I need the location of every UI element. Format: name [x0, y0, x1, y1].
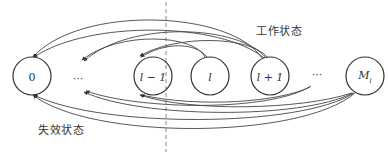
- ellipsis-right: ···: [312, 68, 323, 81]
- node-label-m-i: Mi: [358, 69, 372, 84]
- failure-state-label: 失效状态: [38, 121, 84, 137]
- node-label-0: 0: [29, 71, 36, 84]
- working-state-label: 工作状态: [256, 22, 302, 38]
- node-label-l-plus-1: l + 1: [257, 71, 284, 84]
- node-label-m: M: [358, 69, 369, 82]
- node-label-l: l: [208, 71, 212, 84]
- node-label-m-subscript: i: [370, 77, 372, 85]
- ellipsis-left: ···: [73, 72, 84, 85]
- node-label-l-minus-1: l − 1: [140, 71, 167, 84]
- working-transitions: [33, 20, 268, 61]
